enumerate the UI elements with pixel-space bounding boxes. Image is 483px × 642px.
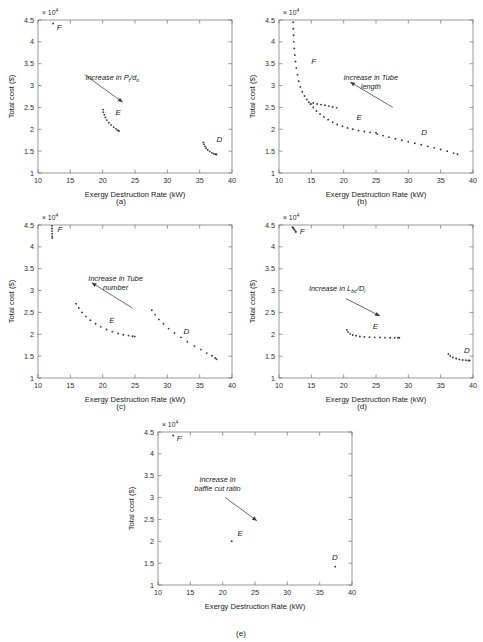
- x-tick-label: 35: [196, 176, 204, 185]
- y-tick-label: 2.5: [24, 103, 34, 112]
- x-tick-label: 35: [437, 381, 445, 390]
- point-label-F: F: [57, 225, 63, 234]
- y-axis-title: Total cost ($): [127, 486, 136, 530]
- series-E: [231, 540, 233, 542]
- data-point: [158, 318, 160, 320]
- data-point: [324, 104, 326, 106]
- figure-exergy-cost-panels: 1015202530354011.522.533.544.5× 104Exerg…: [0, 0, 483, 642]
- data-point: [301, 91, 303, 93]
- x-tick-label: 35: [437, 176, 445, 185]
- data-point: [462, 359, 464, 361]
- data-point: [427, 145, 429, 147]
- data-point: [359, 336, 361, 338]
- data-point: [295, 61, 297, 63]
- data-point: [194, 345, 196, 347]
- x-tick-label: 10: [34, 176, 42, 185]
- data-point: [316, 110, 318, 112]
- x-tick-label: 15: [186, 588, 194, 597]
- point-label-D: D: [464, 346, 470, 355]
- y-tick-label: 1.5: [265, 352, 275, 361]
- series-D: [334, 566, 336, 568]
- x-tick-label: 25: [131, 176, 139, 185]
- data-point: [308, 101, 310, 103]
- data-point: [131, 335, 133, 337]
- y-tick-label: 2: [30, 330, 34, 339]
- data-point: [363, 336, 365, 338]
- plot-box: [158, 432, 352, 585]
- data-point: [102, 111, 104, 113]
- data-point: [363, 131, 365, 133]
- data-point: [95, 323, 97, 325]
- data-point: [398, 337, 400, 339]
- y-axis-title: Total cost ($): [248, 74, 257, 118]
- x-tick-label: 10: [275, 381, 283, 390]
- data-point: [336, 124, 338, 126]
- y-tick-label: 3.5: [265, 264, 275, 273]
- data-point: [355, 335, 357, 337]
- y-tick-label: 1: [271, 169, 275, 178]
- data-point: [163, 323, 165, 325]
- data-point: [332, 121, 334, 123]
- series-F: [52, 23, 54, 25]
- y-axis-title: Total cost ($): [248, 279, 257, 323]
- x-tick-label: 15: [307, 381, 315, 390]
- data-point: [295, 231, 297, 233]
- data-point: [173, 332, 175, 334]
- x-tick-label: 15: [66, 381, 74, 390]
- y-tick-label: 4.5: [24, 221, 34, 230]
- caption-c-text: (c): [116, 402, 125, 411]
- y-tick-label: 1.5: [24, 352, 34, 361]
- y-tick-label: 2: [30, 125, 34, 134]
- y-tick-label: 3.5: [24, 59, 34, 68]
- data-point: [312, 102, 314, 104]
- y-tick-label: 3: [30, 286, 34, 295]
- data-point: [51, 225, 53, 227]
- y-axis-multiplier: × 104: [42, 212, 58, 221]
- caption-e-text: (e): [236, 629, 246, 638]
- data-point: [102, 109, 104, 111]
- data-point: [231, 540, 233, 542]
- data-point: [414, 142, 416, 144]
- data-point: [128, 335, 130, 337]
- data-point: [349, 333, 351, 335]
- x-tick-label: 10: [275, 176, 283, 185]
- y-tick-label: 2.5: [24, 308, 34, 317]
- plot-c: 1015202530354011.522.533.544.5× 104Exerg…: [0, 207, 242, 412]
- x-tick-label: 30: [163, 381, 171, 390]
- data-point: [304, 95, 306, 97]
- plot-box: [279, 20, 473, 173]
- x-tick-label: 40: [469, 176, 477, 185]
- panel-e: 1015202530354011.522.533.544.5× 104Exerg…: [120, 414, 362, 636]
- x-tick-label: 30: [283, 588, 291, 597]
- data-point: [327, 119, 329, 121]
- series-E: [75, 303, 135, 338]
- data-point: [433, 147, 435, 149]
- data-point: [203, 141, 205, 143]
- data-point: [115, 128, 117, 130]
- x-tick-label: 15: [66, 176, 74, 185]
- plot-box: [38, 225, 232, 378]
- point-label-D: D: [421, 128, 427, 137]
- point-label-D: D: [216, 135, 222, 144]
- plot-box: [38, 20, 232, 173]
- plot-e: 1015202530354011.522.533.544.5× 104Exerg…: [120, 414, 362, 619]
- data-point: [51, 233, 53, 235]
- panel-d: 1015202530354011.522.533.544.5× 104Exerg…: [241, 207, 483, 412]
- data-point: [75, 303, 77, 305]
- y-axis-title: Total cost ($): [7, 74, 16, 118]
- plot-box: [279, 225, 473, 378]
- caption-b: (b): [241, 190, 483, 208]
- y-tick-label: 1.5: [144, 559, 154, 568]
- data-point: [51, 237, 53, 239]
- data-point: [293, 47, 295, 49]
- annotation-arrowhead: [92, 283, 97, 287]
- point-label-E: E: [116, 108, 122, 117]
- data-point: [453, 152, 455, 154]
- data-point: [205, 147, 207, 149]
- data-point: [384, 337, 386, 339]
- data-point: [407, 141, 409, 143]
- data-point: [103, 114, 105, 116]
- data-point: [89, 319, 91, 321]
- y-tick-label: 4.5: [144, 428, 154, 437]
- point-label-D: D: [332, 553, 338, 562]
